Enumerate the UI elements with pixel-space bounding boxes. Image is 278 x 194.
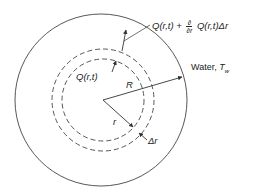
outer-radius-text: R (126, 79, 133, 90)
shell-thickness-arrow (139, 133, 147, 140)
inner-radius-label: r (113, 117, 116, 127)
outer-radius-arrow (103, 77, 182, 100)
flux-in-arrow (112, 61, 116, 72)
partial-denominator: ∂r (186, 27, 192, 34)
water-label: Water, Tw (191, 63, 229, 74)
flux-out-label: Q(r,t) + ∂∂r Q(r,t)Δr (152, 19, 228, 34)
flux-in-text: Q(r,t) (76, 71, 98, 82)
inner-radius-arrow (103, 100, 133, 127)
partial-numerator: ∂ (186, 19, 192, 27)
outer-radius-label: R (126, 80, 133, 90)
flux-out-tail: Q(r,t)Δr (194, 20, 228, 31)
flux-in-label: Q(r,t) (76, 72, 98, 82)
inner-radius-text: r (113, 116, 116, 127)
flux-out-term: Q(r,t) + (152, 20, 184, 31)
outer-boundary-circle (15, 14, 187, 186)
water-temp-subscript: w (225, 68, 229, 74)
partial-derivative-fraction: ∂∂r (186, 19, 192, 34)
flux-out-leader (124, 25, 150, 41)
water-text: Water, (191, 62, 219, 72)
shell-thickness-label: Δr (148, 136, 158, 146)
shell-thickness-text: Δr (148, 135, 158, 146)
diagram-canvas (0, 0, 278, 194)
